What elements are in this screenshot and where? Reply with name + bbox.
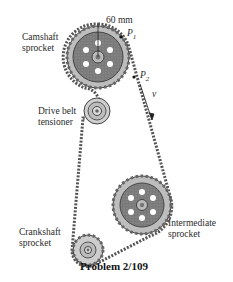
camshaft-sprocket bbox=[67, 24, 129, 88]
crankshaft-label: Crankshaft sprocket bbox=[19, 227, 61, 249]
camshaft-label: Camshaft sprocket bbox=[22, 32, 58, 54]
point-p2-marker bbox=[132, 75, 135, 78]
dimension-label: 60 mm bbox=[106, 15, 133, 26]
intermediate-label: Intermediate sprocket bbox=[168, 218, 216, 240]
tensioner-label: Drive belt tensioner bbox=[38, 106, 76, 128]
p2-label: P2 bbox=[140, 70, 149, 85]
velocity-label: v bbox=[152, 89, 156, 100]
p1-label: P1 bbox=[127, 28, 136, 43]
point-p1-marker bbox=[119, 35, 122, 38]
intermediate-sprocket bbox=[113, 176, 171, 234]
tensioner-pulley bbox=[84, 98, 110, 124]
figure-caption: Problem 2/109 bbox=[80, 260, 148, 272]
